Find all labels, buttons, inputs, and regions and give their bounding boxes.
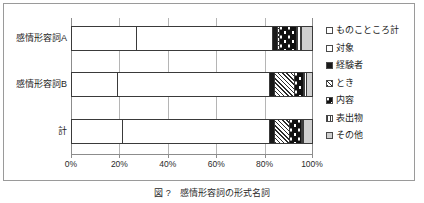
legend-swatch-hatch-icon <box>326 80 333 87</box>
legend-item-hyoshutsubutsu[interactable]: 表出物 <box>326 110 414 128</box>
legend-label-keikensha: 経験者 <box>336 61 363 70</box>
x-axis-label-80: 80% <box>256 159 273 169</box>
x-tick-80 <box>265 154 266 158</box>
x-axis-label-60: 60% <box>208 159 225 169</box>
bar-segment-mono-koto-tokoro[interactable] <box>71 72 117 97</box>
bar-series-total[interactable] <box>71 119 313 144</box>
legend-swatch-light-grey-icon <box>326 132 333 139</box>
bar-segment-naiyo[interactable] <box>289 119 301 144</box>
bar-segment-toki[interactable] <box>274 72 293 97</box>
bar-segment-sonota[interactable] <box>301 26 313 51</box>
bar-segment-mono-koto-tokoro[interactable] <box>71 26 136 51</box>
x-tick-0 <box>71 154 72 158</box>
legend-label-naiyo: 内容 <box>336 96 354 105</box>
legend-item-sonota[interactable]: その他 <box>326 127 414 145</box>
bar-series-kanjo-a[interactable] <box>71 26 313 51</box>
legend-swatch-black-dots-icon <box>326 97 333 104</box>
bar-segment-mono-koto-tokoro[interactable] <box>71 119 122 144</box>
chart-frame: 感情形容詞A 感情形容詞B 計 0% 20% 40% 60% 80% 100% … <box>3 3 415 181</box>
x-tick-20 <box>119 154 120 158</box>
legend-item-keikensha[interactable]: 経験者 <box>326 57 414 75</box>
x-tick-40 <box>168 154 169 158</box>
legend-swatch-vertical-lines-icon <box>326 115 333 122</box>
legend-item-taisho[interactable]: 対象 <box>326 40 414 58</box>
bar-segment-sonota[interactable] <box>306 72 313 97</box>
y-axis-labels: 感情形容詞A 感情形容詞B 計 <box>4 18 71 154</box>
bar-segment-taisho[interactable] <box>117 72 269 97</box>
x-axis-label-0: 0% <box>65 159 77 169</box>
legend-item-toki[interactable]: とき <box>326 75 414 93</box>
legend-label-toki: とき <box>336 79 354 88</box>
legend-label-hyoshutsubutsu: 表出物 <box>336 114 363 123</box>
bar-segment-taisho[interactable] <box>136 26 272 51</box>
legend-swatch-white-icon <box>326 45 333 52</box>
legend-swatch-light-dots-icon <box>326 27 333 34</box>
x-axis-line <box>71 154 313 155</box>
y-axis-label-kanjo-a: 感情形容詞A <box>5 26 67 51</box>
legend-label-taisho: 対象 <box>336 44 354 53</box>
legend-item-naiyo[interactable]: 内容 <box>326 92 414 110</box>
legend-label-mono-koto-tokoro: ものこところ計 <box>336 26 399 35</box>
x-axis: 0% 20% 40% 60% 80% 100% <box>71 154 313 176</box>
legend-item-mono-koto-tokoro[interactable]: ものこところ計 <box>326 22 414 40</box>
x-axis-label-20: 20% <box>111 159 128 169</box>
legend-label-sonota: その他 <box>336 131 363 140</box>
y-axis-label-total: 計 <box>5 119 67 144</box>
x-axis-label-100: 100% <box>301 159 323 169</box>
plot-area <box>71 18 313 154</box>
legend-swatch-solid-black-icon <box>326 62 333 69</box>
bar-segment-naiyo[interactable] <box>294 72 304 97</box>
y-axis-label-kanjo-b: 感情形容詞B <box>5 72 67 97</box>
x-tick-60 <box>216 154 217 158</box>
bar-segment-taisho[interactable] <box>122 119 270 144</box>
bar-segment-toki[interactable] <box>274 119 289 144</box>
bar-segment-sonota[interactable] <box>303 119 313 144</box>
x-tick-100 <box>312 154 313 158</box>
x-axis-label-40: 40% <box>159 159 176 169</box>
bar-series-kanjo-b[interactable] <box>71 72 313 97</box>
chart-legend: ものこところ計 対象 経験者 とき 内容 表出物 その他 <box>326 22 414 145</box>
figure-caption: 図 ? 感情形容詞の形式名詞 <box>0 186 424 203</box>
bar-segment-naiyo[interactable] <box>279 26 296 51</box>
